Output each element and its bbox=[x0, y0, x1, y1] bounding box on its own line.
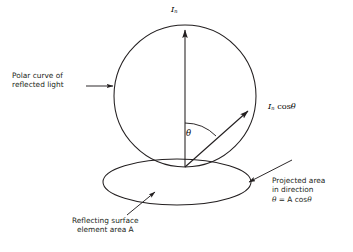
projected-area-equals: = A cos bbox=[276, 195, 307, 204]
normal-intensity-label: In bbox=[171, 4, 178, 14]
polar-curve-caption-line1: Polar curve of bbox=[12, 71, 64, 80]
normal-intensity-subscript: n bbox=[174, 8, 177, 14]
theta-intensity-arrow bbox=[185, 111, 248, 167]
theta-intensity-label: In cosθ bbox=[268, 101, 296, 111]
reflecting-surface-caption-line2: element area A bbox=[72, 225, 139, 234]
reflecting-surface-caption-line1: Reflecting surface bbox=[72, 216, 139, 225]
reflecting-surface-ellipse bbox=[103, 159, 251, 205]
polar-curve-caption-line2: reflected light bbox=[12, 80, 64, 89]
projected-area-caption: Projected area in direction θ = A cosθ bbox=[272, 176, 325, 204]
projected-area-caption-line2: in direction bbox=[272, 185, 325, 194]
reflecting-surface-caption: Reflecting surface element area A bbox=[72, 216, 139, 235]
diagram-svg bbox=[0, 0, 353, 252]
theta-intensity-angle: θ bbox=[291, 101, 296, 111]
diagram-canvas: In In cosθ θ Polar curve of reflected li… bbox=[0, 0, 353, 252]
theta-intensity-cos: cos bbox=[277, 101, 291, 111]
projected-area-caption-line1: Projected area bbox=[272, 176, 325, 185]
projected-area-theta2: θ bbox=[307, 195, 311, 204]
projected-area-caption-line3: θ = A cosθ bbox=[272, 195, 325, 204]
angle-label: θ bbox=[186, 128, 191, 138]
polar-curve-caption: Polar curve of reflected light bbox=[12, 71, 64, 90]
